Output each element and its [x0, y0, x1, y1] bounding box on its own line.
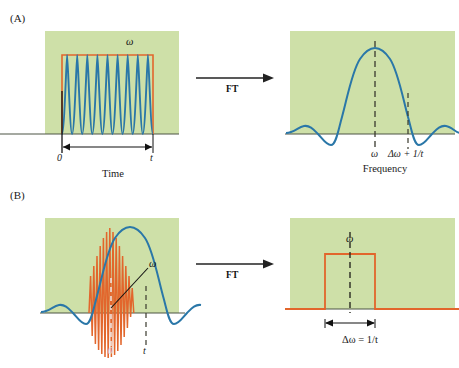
axis-label-time: Time — [63, 168, 163, 179]
ft-label-a: FT — [226, 84, 239, 94]
plot-b-time-domain — [45, 218, 179, 358]
axis-label-frequency: Frequency — [325, 163, 445, 174]
figure-root: (A) ω 0 t Time FT — [0, 0, 459, 368]
tick-label-a-omega: ω — [371, 148, 378, 159]
plot-b-frequency-domain — [290, 218, 458, 338]
plot-a-frequency-domain — [290, 31, 455, 146]
arrow-head — [263, 74, 274, 83]
plot-background — [290, 218, 455, 309]
tick-label-a-t: t — [150, 152, 153, 163]
tick-label-a-delta-omega: Δω + 1/t — [388, 148, 423, 159]
duration-arrow-head-right — [145, 144, 152, 151]
ft-label-b: FT — [226, 270, 239, 280]
bandwidth-measure-label: Δω = 1/t — [300, 334, 420, 345]
plot-a-time-domain — [45, 31, 179, 141]
tick-label-b-zero: 0 — [108, 345, 113, 356]
measure-arrow-head-right — [367, 320, 375, 327]
panel-label-a: (A) — [10, 12, 25, 24]
tick-label-b-t: t — [143, 345, 146, 356]
plot-background — [290, 31, 455, 134]
arrow-head — [263, 260, 274, 269]
panel-label-b: (B) — [10, 189, 25, 201]
omega-label-b-left: ω — [149, 258, 156, 269]
tick-label-a-zero: 0 — [57, 152, 62, 163]
measure-arrow-head-left — [325, 320, 333, 327]
duration-arrow-head-left — [63, 144, 70, 151]
omega-label-b-right: ω — [346, 233, 353, 244]
omega-label-a-left: ω — [126, 36, 133, 47]
